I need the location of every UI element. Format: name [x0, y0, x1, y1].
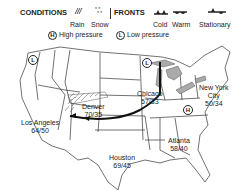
- low-pressure-marker: L: [28, 55, 38, 65]
- map-legend: CONDITIONS Rain * ** * Snow FRONTS Cold …: [0, 0, 245, 40]
- cold-label: Cold: [153, 21, 167, 28]
- city-los-angeles: Los Angeles64/50: [21, 119, 59, 135]
- warm-front-icon: [173, 8, 187, 16]
- snow-label: Snow: [91, 21, 109, 28]
- city-denver: Denver70/35: [82, 103, 105, 119]
- high-pressure-marker: H: [183, 105, 193, 115]
- rain-area: [65, 99, 76, 112]
- city-houston: Houston69/45: [109, 154, 135, 170]
- low-pressure-marker: L: [142, 58, 152, 68]
- snow-icon: * ** *: [95, 6, 105, 16]
- stationary-front-icon: [208, 7, 226, 16]
- city-atlanta: Atlanta58/40: [168, 137, 190, 153]
- rain-icon: [73, 7, 83, 15]
- great-lakes: [150, 60, 206, 94]
- legend-divider: [110, 8, 111, 19]
- cold-front-icon: [154, 8, 168, 16]
- warm-label: Warm: [172, 21, 190, 28]
- fronts-title: FRONTS: [114, 8, 145, 17]
- stationary-label: Stationary: [199, 21, 231, 28]
- svg-text:* *: * *: [97, 10, 102, 16]
- rain-label: Rain: [70, 21, 84, 28]
- city-new-york: New YorkCity50/34: [199, 84, 229, 108]
- city-chicago: Chicago57/33: [137, 90, 163, 106]
- conditions-title: CONDITIONS: [20, 8, 67, 17]
